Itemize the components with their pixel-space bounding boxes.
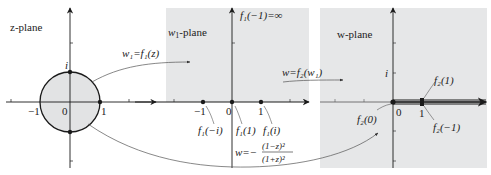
w1-label-neg-one: −1: [194, 105, 206, 117]
z-plane: z-plane i −1 0 1: [6, 8, 156, 168]
map2-label: w=f₂(w₁): [282, 66, 322, 79]
w1-label-one: 1: [258, 105, 264, 117]
z-label-neg-one: −1: [28, 105, 40, 117]
composite-lhs: w=−: [235, 146, 257, 158]
w1-infinity-label: f₁(−1)=∞: [240, 9, 283, 22]
w-label-one: 1: [419, 107, 425, 119]
w-label-f2-neg-one: f₂(−1): [433, 121, 460, 134]
w1-label-f1-one: f₁(1): [236, 124, 256, 137]
z-label-one: 1: [101, 105, 107, 117]
z-plane-title: z-plane: [10, 21, 42, 33]
point-one: [98, 100, 102, 104]
z-label-i: i: [65, 59, 68, 71]
w-label-i: i: [385, 67, 388, 79]
z-label-zero: 0: [62, 105, 68, 117]
w-label-f2-zero: f₂(0): [357, 113, 377, 126]
w1-upper-half-plane: [166, 8, 309, 102]
composite-denominator: (1+z)²: [262, 154, 285, 164]
composite-numerator: (1−z)²: [262, 141, 285, 151]
w1-plane-title: w1-plane: [168, 26, 207, 40]
w-plane-title: w-plane: [337, 28, 373, 40]
point-i: [68, 70, 72, 74]
map1-label: w₁=f₁(z): [122, 47, 159, 60]
point-neg-i: [68, 130, 72, 134]
w1-point-one: [259, 100, 263, 104]
w1-point-zero: [230, 100, 234, 104]
w-point-one: [420, 98, 424, 106]
w-label-zero: 0: [396, 106, 402, 118]
conformal-map-diagram: z-plane i −1 0 1 w₁=f₁(z) w1-plane f₁(−1…: [0, 0, 491, 175]
w1-point-neg-one: [201, 100, 205, 104]
w1-label-f1-neg-i: f₁(−i): [198, 124, 223, 137]
w1-label-f1-i: f₁(i): [263, 124, 281, 137]
w1-label-zero: 0: [226, 105, 232, 117]
w-point-zero: [390, 99, 395, 104]
w-label-f2-one: f₂(1): [434, 74, 454, 87]
